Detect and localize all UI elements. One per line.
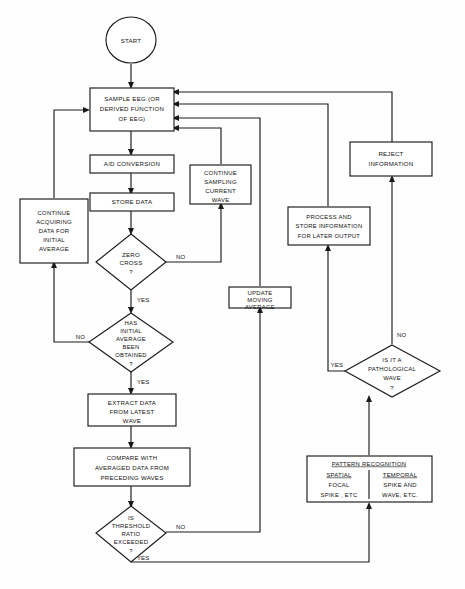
update-line2: MOVING bbox=[247, 297, 273, 303]
sample-eeg-line2: DERIVED FUNCTION bbox=[100, 105, 164, 112]
node-continue-sampling[interactable]: CONTINUE SAMPLING CURRENT WAVE bbox=[190, 165, 251, 204]
edge-label-hasinit-no: NO bbox=[76, 334, 85, 340]
extract-data-line1: EXTRACT DATA bbox=[108, 399, 157, 406]
zero-cross-line3: ? bbox=[129, 268, 133, 275]
arrowhead-threshold-yes-pattern bbox=[366, 502, 372, 509]
has-initial-line6: ? bbox=[129, 361, 133, 367]
node-threshold-ratio[interactable]: IS THRESHOLD RATIO EXCEEDED ? bbox=[96, 506, 166, 562]
node-has-initial-average[interactable]: HAS INITIAL AVERAGE BEEN OBTAINED ? bbox=[89, 313, 173, 372]
arrowhead-contacq-sample bbox=[83, 107, 90, 113]
edge-threshold-no-to-update bbox=[166, 309, 260, 532]
zero-cross-line1: ZERO bbox=[122, 251, 140, 258]
edge-label-pathological-yes: YES bbox=[331, 362, 343, 368]
threshold-line4: EXCEEDED bbox=[114, 539, 148, 545]
reject-line1: REJECT bbox=[378, 150, 403, 157]
update-line3: AVERAGE bbox=[245, 304, 275, 310]
edge-contacq-to-sample bbox=[54, 110, 87, 198]
pathological-line3: WAVE bbox=[383, 375, 401, 381]
edge-contsamp-to-sample bbox=[175, 128, 221, 164]
node-update-moving-average[interactable]: UPDATE MOVING AVERAGE bbox=[229, 287, 291, 310]
continue-acq-line4: INITIAL bbox=[43, 237, 65, 243]
edge-threshold-yes-to-pattern bbox=[131, 505, 369, 562]
edge-label-threshold-yes: YES bbox=[137, 555, 149, 561]
process-line3: FOR LATER OUTPUT bbox=[298, 233, 361, 239]
process-line2: STORE INFORMATION bbox=[296, 223, 363, 229]
node-continue-acquiring[interactable]: CONTINUE ACQUIRING DATA FOR INITIAL AVER… bbox=[20, 199, 88, 263]
edge-zero-no-to-contsamp bbox=[166, 205, 221, 262]
pathological-line1: IS IT A bbox=[382, 357, 401, 363]
node-store-data[interactable]: STORE DATA bbox=[90, 193, 174, 211]
edge-hasinit-no-to-contacq bbox=[54, 264, 96, 342]
arrowhead-pattern-pathological bbox=[366, 395, 372, 402]
edge-label-zero-no: NO bbox=[176, 254, 185, 260]
has-initial-line4: BEEN bbox=[122, 344, 139, 350]
pathological-line4: ? bbox=[390, 385, 394, 391]
node-pathological-wave[interactable]: IS IT A PATHOLOGICAL WAVE ? bbox=[345, 345, 440, 397]
continue-acq-line2: ACQUIRING bbox=[36, 219, 72, 225]
eeg-flowchart-svg: START SAMPLE EEG (OR DERIVED FUNCTION OF… bbox=[0, 0, 465, 589]
pattern-spatial-line3: SPIKE , ETC bbox=[321, 492, 358, 498]
node-compare-averaged[interactable]: COMPARE WITH AVERAGED DATA FROM PRECEDIN… bbox=[74, 448, 190, 486]
zero-cross-line2: CROSS bbox=[120, 259, 143, 266]
node-start[interactable]: START bbox=[106, 17, 156, 63]
update-line1: UPDATE bbox=[248, 290, 273, 296]
node-sample-eeg[interactable]: SAMPLE EEG (OR DERIVED FUNCTION OF EEG) bbox=[90, 88, 174, 131]
edge-label-pathological-no: NO bbox=[397, 332, 406, 338]
continue-samp-line1: CONTINUE bbox=[204, 170, 237, 176]
threshold-line1: IS bbox=[128, 515, 134, 521]
pattern-temporal-line2: SPIKE AND bbox=[383, 482, 416, 488]
store-data-label: STORE DATA bbox=[112, 198, 153, 205]
has-initial-line5: OBTAINED bbox=[115, 352, 147, 358]
ad-conversion-label: A/D CONVERSION bbox=[104, 160, 160, 167]
edge-label-zero-yes: YES bbox=[137, 297, 149, 303]
extract-data-line2: FROM LATEST bbox=[110, 408, 155, 415]
threshold-line5: ? bbox=[129, 548, 133, 554]
threshold-line3: RATIO bbox=[122, 531, 141, 537]
edge-pathological-yes-to-process bbox=[328, 247, 345, 371]
start-label: START bbox=[121, 37, 142, 44]
sample-eeg-line1: SAMPLE EEG (OR bbox=[104, 95, 160, 102]
node-pattern-recognition[interactable]: PATTERN RECOGNITION SPATIAL FOCAL SPIKE … bbox=[307, 456, 432, 502]
pattern-spatial-title: SPATIAL bbox=[326, 472, 352, 478]
edge-label-hasinit-yes: YES bbox=[137, 379, 149, 385]
reject-line2: INFORMATION bbox=[369, 160, 414, 167]
node-ad-conversion[interactable]: A/D CONVERSION bbox=[90, 155, 174, 173]
has-initial-line3: AVERAGE bbox=[116, 336, 146, 342]
threshold-line2: THRESHOLD bbox=[112, 523, 151, 529]
process-line1: PROCESS AND bbox=[306, 214, 351, 220]
extract-data-line3: WAVE bbox=[123, 417, 141, 424]
node-process-store[interactable]: PROCESS AND STORE INFORMATION FOR LATER … bbox=[288, 207, 370, 245]
node-reject-information[interactable]: REJECT INFORMATION bbox=[350, 142, 432, 176]
pattern-temporal-line3: WAVE, ETC. bbox=[382, 492, 418, 498]
compare-line2: AVERAGED DATA FROM bbox=[95, 464, 169, 471]
node-zero-cross[interactable]: ZERO CROSS ? bbox=[96, 234, 166, 290]
pattern-title: PATTERN RECOGNITION bbox=[332, 461, 407, 467]
edge-label-threshold-no: NO bbox=[176, 524, 185, 530]
continue-acq-line1: CONTINUE bbox=[38, 210, 71, 216]
flowchart-canvas: START SAMPLE EEG (OR DERIVED FUNCTION OF… bbox=[0, 0, 465, 589]
pattern-spatial-line2: FOCAL bbox=[329, 482, 350, 488]
continue-samp-line2: SAMPLING bbox=[204, 179, 237, 185]
node-extract-data[interactable]: EXTRACT DATA FROM LATEST WAVE bbox=[88, 394, 176, 426]
continue-acq-line3: DATA FOR bbox=[39, 228, 70, 234]
pathological-line2: PATHOLOGICAL bbox=[368, 366, 416, 372]
pattern-temporal-title: TEMPORAL bbox=[383, 472, 418, 478]
compare-line1: COMPARE WITH bbox=[107, 454, 158, 461]
sample-eeg-line3: OF EEG) bbox=[119, 115, 146, 122]
has-initial-line2: INITIAL bbox=[120, 328, 142, 334]
has-initial-line1: HAS bbox=[125, 320, 138, 326]
continue-acq-line5: AVERAGE bbox=[39, 246, 69, 252]
compare-line3: PRECEDING WAVES bbox=[100, 474, 163, 481]
continue-samp-line3: CURRENT bbox=[205, 188, 236, 194]
continue-samp-line4: WAVE bbox=[212, 197, 230, 203]
